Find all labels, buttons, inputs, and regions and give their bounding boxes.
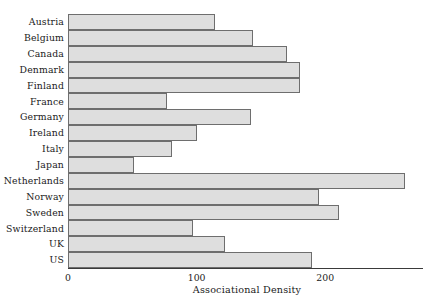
bar-norway bbox=[68, 189, 319, 205]
bar-italy bbox=[68, 141, 172, 157]
category-label-denmark: Denmark bbox=[0, 65, 64, 74]
category-label-norway: Norway bbox=[0, 192, 64, 201]
bar-belgium bbox=[68, 30, 253, 46]
bar-canada bbox=[68, 46, 287, 62]
x-axis-title: Associational Density bbox=[0, 284, 430, 295]
bar-finland bbox=[68, 78, 300, 94]
bar-denmark bbox=[68, 62, 300, 78]
category-label-germany: Germany bbox=[0, 112, 64, 121]
x-tick-label-100: 100 bbox=[188, 272, 206, 283]
category-label-finland: Finland bbox=[0, 81, 64, 90]
category-axis: AustriaBelgiumCanadaDenmarkFinlandFrance… bbox=[0, 14, 64, 268]
category-label-uk: UK bbox=[0, 239, 64, 248]
bar-germany bbox=[68, 109, 251, 125]
bar-japan bbox=[68, 157, 134, 173]
category-label-switzerland: Switzerland bbox=[0, 224, 64, 233]
bar-ireland bbox=[68, 125, 197, 141]
bar-us bbox=[68, 252, 312, 268]
bar-austria bbox=[68, 14, 215, 30]
bar-france bbox=[68, 93, 167, 109]
x-tick-label-200: 200 bbox=[316, 272, 334, 283]
category-label-ireland: Ireland bbox=[0, 128, 64, 137]
x-tick-label-0: 0 bbox=[65, 272, 71, 283]
category-label-canada: Canada bbox=[0, 49, 64, 58]
plot-area bbox=[68, 14, 423, 268]
category-label-belgium: Belgium bbox=[0, 33, 64, 42]
category-label-japan: Japan bbox=[0, 160, 64, 169]
x-axis-line bbox=[68, 268, 423, 269]
category-label-netherlands: Netherlands bbox=[0, 176, 64, 185]
bar-uk bbox=[68, 236, 225, 252]
category-label-austria: Austria bbox=[0, 17, 64, 26]
category-label-sweden: Sweden bbox=[0, 208, 64, 217]
category-label-us: US bbox=[0, 255, 64, 264]
bar-sweden bbox=[68, 205, 339, 221]
bar-netherlands bbox=[68, 173, 405, 189]
bar-chart: AustriaBelgiumCanadaDenmarkFinlandFrance… bbox=[0, 0, 430, 304]
x-axis-title-label: Associational Density bbox=[193, 284, 301, 295]
category-label-italy: Italy bbox=[0, 144, 64, 153]
bar-switzerland bbox=[68, 220, 193, 236]
category-label-france: France bbox=[0, 97, 64, 106]
